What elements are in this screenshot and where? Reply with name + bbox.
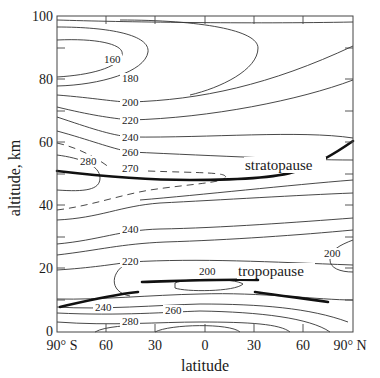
contour-label-260-low: 260: [165, 304, 182, 316]
y-tick-80: 80: [39, 72, 53, 87]
contour-label-270: 270: [122, 162, 139, 174]
contour-label-220: 220: [122, 114, 139, 126]
contour-label-280: 280: [80, 155, 97, 167]
contour-label-260: 260: [122, 146, 139, 158]
contour-label-220-low: 220: [122, 255, 139, 267]
contour-label-280-low: 280: [122, 315, 139, 327]
contour-label-160: 160: [104, 53, 121, 65]
contour-chart: 160 180 200 220 240 260 270 280 240 220 …: [0, 0, 380, 378]
contour-label-240: 240: [122, 131, 139, 143]
stratopause-label: stratopause: [245, 157, 313, 173]
axis-ticks: [57, 16, 353, 332]
contour-labels: 160 180 200 220 240 260 270 280 240 220 …: [78, 53, 342, 327]
x-tick-60s: 60: [99, 338, 113, 353]
contour-label-240-mid: 240: [122, 223, 139, 235]
contour-label-200: 200: [122, 96, 139, 108]
contour-label-200-equator: 200: [199, 265, 216, 277]
x-tick-0: 0: [202, 338, 209, 353]
contour-label-240-low: 240: [95, 301, 112, 313]
y-axis: 100 80 60 40 20 0 altitude, km: [6, 9, 53, 339]
plot-frame: [57, 16, 353, 332]
tropopause-line-north: [255, 292, 328, 302]
tropopause-label: tropopause: [238, 263, 304, 279]
x-tick-60n: 60: [296, 338, 310, 353]
x-tick-30n: 30: [247, 338, 261, 353]
y-tick-20: 20: [39, 261, 53, 276]
x-tick-30s: 30: [148, 338, 162, 353]
x-tick-90n: 90° N: [333, 338, 366, 353]
tropopause-line-tropics: [142, 280, 258, 282]
y-tick-100: 100: [32, 9, 53, 24]
y-axis-title: altitude, km: [6, 139, 23, 216]
y-tick-0: 0: [46, 324, 53, 339]
x-axis: 90° S 60 30 0 30 60 90° N latitude: [47, 338, 367, 374]
contour-label-180: 180: [122, 72, 139, 84]
contour-label-200-north: 200: [324, 247, 341, 259]
x-tick-90s: 90° S: [47, 338, 78, 353]
y-tick-40: 40: [39, 198, 53, 213]
x-axis-title: latitude: [181, 357, 229, 374]
y-tick-60: 60: [39, 135, 53, 150]
